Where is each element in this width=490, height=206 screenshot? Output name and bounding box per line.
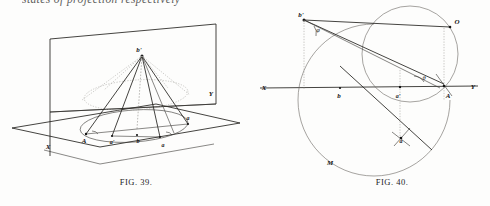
figure-39-caption-text: FIG. 39. [120, 177, 153, 187]
label-rim-right: a [187, 115, 190, 121]
figure-40-caption-text: FIG. 40. [376, 177, 409, 187]
label-point-a: a [400, 138, 403, 144]
base-point-A [85, 133, 87, 135]
main-circle [362, 6, 458, 102]
generator-extra [142, 56, 174, 133]
running-text: states of projection respectively [22, 0, 222, 7]
label-axis-x: X [261, 84, 267, 92]
rim-point-right [187, 123, 189, 125]
point-a-prime [399, 86, 401, 88]
label-point-a-prime: a' [396, 93, 401, 99]
base-ellipse [79, 106, 189, 145]
label-axis-x: X [45, 143, 51, 151]
point-A [443, 85, 446, 88]
label-base-A: A [81, 137, 87, 145]
generator-left [86, 56, 142, 134]
figure-39-caption: FIG. 39. [96, 177, 176, 187]
ground-plane-front-edge [44, 144, 214, 164]
textbook-page: states of projection respectively .sol{f… [0, 0, 490, 206]
label-point-b: b [337, 92, 341, 100]
ground-trace [50, 104, 216, 112]
label-b-prime: b' [298, 11, 304, 19]
label-base-b: b [137, 138, 140, 144]
base-point-a-prime [111, 135, 113, 137]
base-chord-2 [112, 136, 160, 137]
label-base-a: a [162, 142, 165, 148]
label-point-A: A [445, 92, 451, 100]
label-O: O [454, 18, 459, 26]
line-bprime-O [304, 20, 450, 27]
revolution-arc-M [298, 24, 450, 176]
figure-40: .sol2{fill:none;stroke:#23221f;stroke-wi… [254, 4, 486, 170]
generator-mid1 [112, 56, 142, 136]
base-point-b [136, 134, 138, 136]
label-arc-M: M [326, 159, 334, 167]
generator-right [142, 56, 188, 124]
figure-40-caption: FIG. 40. [352, 177, 432, 187]
label-axis-y: Y [471, 83, 476, 91]
generator-hidden-a [104, 56, 142, 90]
generator-hidden-left [82, 56, 142, 100]
figure-39: .sol{fill:none;stroke:#23221f;stroke-wid… [8, 16, 244, 168]
oblique-line-b-a [340, 66, 432, 150]
base-point-a [159, 136, 161, 138]
point-O [449, 26, 452, 29]
label-axis-y: Y [209, 90, 214, 98]
point-b [339, 87, 341, 89]
label-apex-b-prime: b' [136, 46, 142, 54]
label-base-a-prime: a' [110, 139, 115, 145]
label-angle-phi: φ [316, 26, 320, 33]
label-angle-theta: θ [422, 74, 426, 81]
